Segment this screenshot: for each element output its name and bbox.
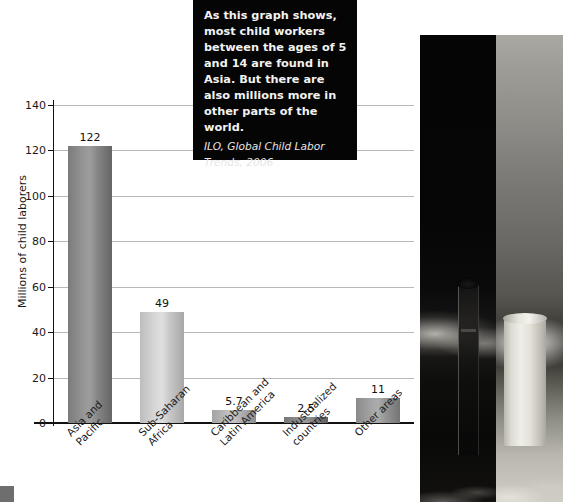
photo-dark-subject [458,285,479,455]
corner-tab [0,486,14,502]
y-tick-label: 100 [18,191,46,202]
bar-value-label: 11 [343,384,413,395]
bar-value-label: 49 [127,298,197,309]
bar-value-label: 2.5 [271,403,341,414]
y-tick-label: 40 [18,327,46,338]
bar-value-label: 122 [55,132,125,143]
bar-value-label: 5.7 [199,396,269,407]
callout-body-text: As this graph shows, most child workers … [204,8,347,136]
photo-strip-light [496,35,563,502]
y-tick-label: 80 [18,236,46,247]
bar [68,146,112,423]
y-tick-label: 120 [18,145,46,156]
photo-strip-dark [420,35,496,502]
y-tick [48,423,59,424]
child-labor-bar-chart-figure: Millions of child laborers 0204060801001… [0,0,563,502]
callout-source-text: ILO, Global Child Labor Trends, 2006 [204,139,347,170]
photo-light-subject [504,318,546,446]
callout-box: As this graph shows, most child workers … [193,0,357,160]
y-tick-label: 20 [18,373,46,384]
y-tick-label: 140 [18,100,46,111]
y-tick-label: 0 [18,418,46,429]
y-tick-label: 60 [18,282,46,293]
